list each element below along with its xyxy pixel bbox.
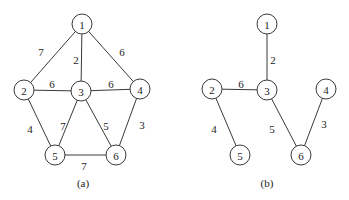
- edge-weight-label: 4: [27, 123, 33, 135]
- graph-canvas: 7266647537123456(a)26453123456(b): [0, 0, 349, 200]
- edge-weight-label: 2: [270, 54, 276, 66]
- edge-weight-label: 3: [321, 118, 327, 130]
- edge-weight-label: 7: [38, 46, 44, 58]
- node-label: 3: [78, 86, 84, 98]
- node-label: 3: [264, 85, 270, 97]
- edge-2-5: [212, 89, 240, 155]
- node-label: 5: [237, 150, 243, 162]
- edge-weight-label: 6: [119, 46, 125, 58]
- node-label: 6: [113, 150, 119, 162]
- node-label: 1: [264, 19, 270, 31]
- node-6: 6: [106, 145, 126, 165]
- node-1: 1: [72, 14, 92, 34]
- edge-weight-label: 5: [103, 120, 109, 132]
- node-5: 5: [45, 145, 65, 165]
- graph-b: 26453123456(b): [202, 14, 336, 190]
- node-2: 2: [14, 80, 34, 100]
- node-4: 4: [130, 79, 150, 99]
- edge-weight-label: 7: [81, 160, 87, 172]
- node-label: 1: [79, 19, 85, 31]
- edge-weight-label: 6: [49, 78, 55, 90]
- caption-a: (a): [77, 177, 90, 190]
- node-3: 3: [257, 80, 277, 100]
- edge-weight-label: 2: [73, 54, 79, 66]
- node-label: 4: [323, 84, 329, 96]
- caption-b: (b): [261, 177, 274, 190]
- graph-a: 7266647537123456(a): [14, 14, 150, 190]
- node-label: 5: [52, 150, 58, 162]
- node-4: 4: [316, 79, 336, 99]
- node-3: 3: [71, 81, 91, 101]
- edge-weight-label: 5: [269, 123, 275, 135]
- edge-3-6: [81, 91, 116, 155]
- graph-figure: 7266647537123456(a)26453123456(b): [0, 0, 349, 200]
- edge-4-6: [116, 89, 140, 155]
- edge-weight-label: 4: [211, 123, 217, 135]
- node-5: 5: [230, 145, 250, 165]
- node-label: 4: [137, 84, 143, 96]
- node-6: 6: [291, 145, 311, 165]
- node-label: 2: [209, 84, 215, 96]
- edge-weight-label: 6: [108, 78, 114, 90]
- node-label: 6: [298, 150, 304, 162]
- edge-weight-label: 6: [238, 78, 244, 90]
- node-1: 1: [257, 14, 277, 34]
- node-label: 2: [21, 85, 27, 97]
- edge-weight-label: 7: [60, 120, 66, 132]
- node-2: 2: [202, 79, 222, 99]
- edge-weight-label: 3: [139, 119, 145, 131]
